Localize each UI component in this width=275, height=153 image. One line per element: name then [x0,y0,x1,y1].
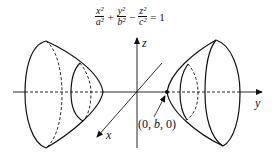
vertex-label: (0, b, 0) [138,117,176,132]
right-sheet [167,40,240,146]
pointer-arrow [154,96,165,117]
x-axis-label: x [106,128,111,143]
y-axis-label: y [255,96,260,111]
z-axis-label: z [142,36,147,51]
vertex-point [165,90,169,94]
left-sheet [25,41,103,148]
